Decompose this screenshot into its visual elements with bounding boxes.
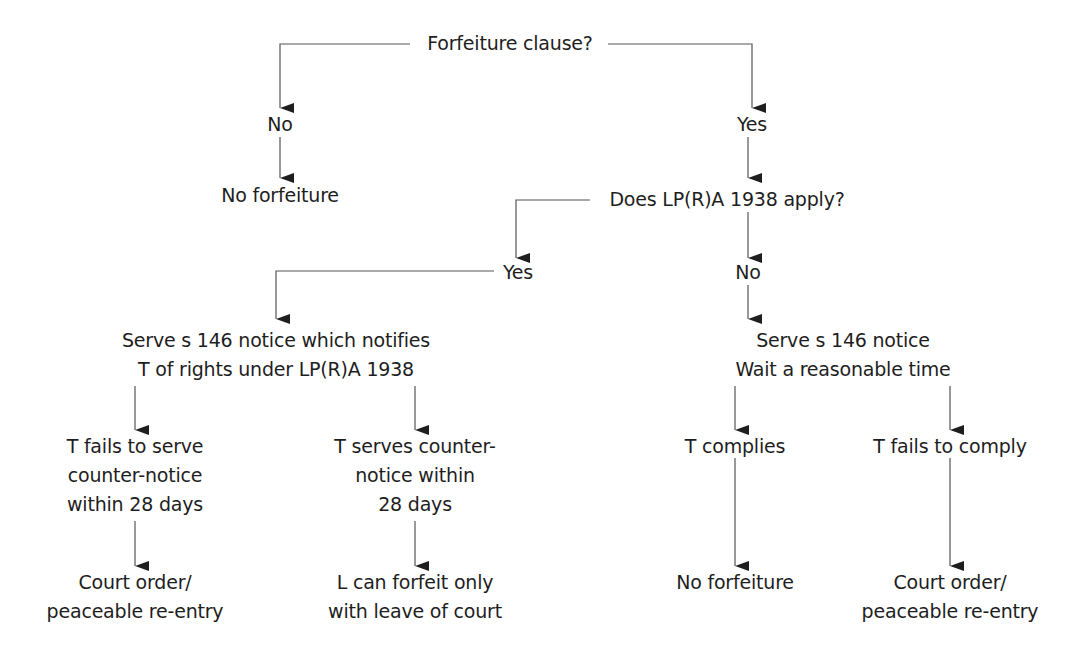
node-t-serves-counter: T serves counter- notice within 28 days [334,432,495,519]
node-text: Forfeiture clause? [427,29,592,58]
node-text: No [735,258,760,287]
node-text: No forfeiture [221,181,339,210]
node-text: with leave of court [328,597,502,626]
node-serve-wait: Serve s 146 notice Wait a reasonable tim… [735,326,950,384]
node-t-complies: T complies [685,432,785,461]
node-forfeiture-clause: Forfeiture clause? [427,29,592,58]
node-text: T fails to comply [873,432,1026,461]
node-t-fails-counter: T fails to serve counter-notice within 2… [67,432,204,519]
node-lpra-no: No [735,258,760,287]
node-lpra-question: Does LP(R)A 1938 apply? [609,185,844,214]
node-text: L can forfeit only [328,568,502,597]
node-serve-notify: Serve s 146 notice which notifies T of r… [122,326,430,384]
node-text: Yes [503,258,533,287]
node-text: peaceable re-entry [862,597,1039,626]
node-text: Does LP(R)A 1938 apply? [609,185,844,214]
node-court-order-left: Court order/ peaceable re-entry [47,568,224,626]
node-text: T fails to serve [67,432,204,461]
node-text: Serve s 146 notice which notifies [122,326,430,355]
node-yes-top: Yes [737,110,767,139]
node-no-forfeiture-bottom: No forfeiture [676,568,794,597]
node-text: Serve s 146 notice [735,326,950,355]
node-text: T of rights under LP(R)A 1938 [122,355,430,384]
node-text: Wait a reasonable time [735,355,950,384]
node-no-top: No [267,110,292,139]
node-no-forfeiture-top: No forfeiture [221,181,339,210]
node-text: 28 days [334,490,495,519]
node-text: No [267,110,292,139]
node-lpra-yes: Yes [503,258,533,287]
node-text: T complies [685,432,785,461]
node-text: T serves counter- [334,432,495,461]
node-text: Court order/ [47,568,224,597]
node-leave-of-court: L can forfeit only with leave of court [328,568,502,626]
node-text: Court order/ [862,568,1039,597]
node-text: counter-notice [67,461,204,490]
node-text: Yes [737,110,767,139]
node-court-order-right: Court order/ peaceable re-entry [862,568,1039,626]
node-text: within 28 days [67,490,204,519]
node-text: notice within [334,461,495,490]
node-text: peaceable re-entry [47,597,224,626]
node-text: No forfeiture [676,568,794,597]
node-t-fails-comply: T fails to comply [873,432,1026,461]
